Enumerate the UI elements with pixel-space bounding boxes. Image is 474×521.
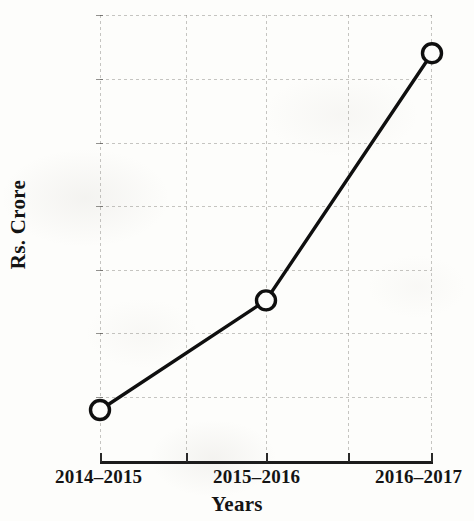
data-point-marker xyxy=(91,401,110,420)
series-line xyxy=(100,53,432,410)
data-point-marker xyxy=(423,44,442,63)
data-series-layer xyxy=(0,0,474,521)
chart-figure: 80,000 75,000 70,000 65,000 60,000 55,00… xyxy=(0,0,474,521)
data-point-marker xyxy=(257,291,276,310)
